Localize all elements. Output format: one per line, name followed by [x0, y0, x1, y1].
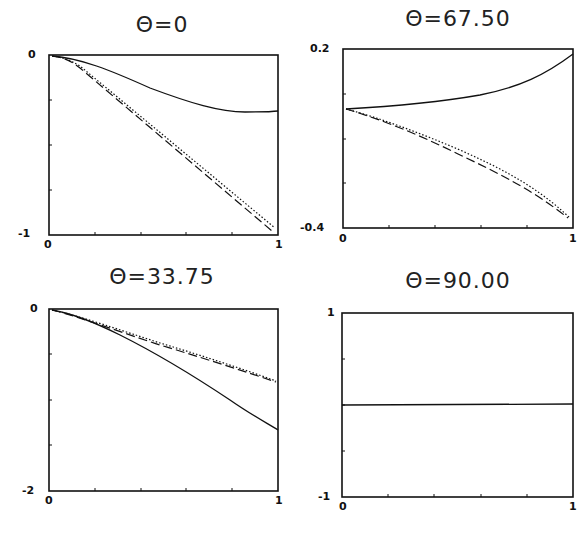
series-solid: [342, 404, 573, 405]
plot-area: [0, 0, 583, 533]
panel-theta-90-00: Θ=90.00 1 -1 0 1: [0, 0, 583, 533]
